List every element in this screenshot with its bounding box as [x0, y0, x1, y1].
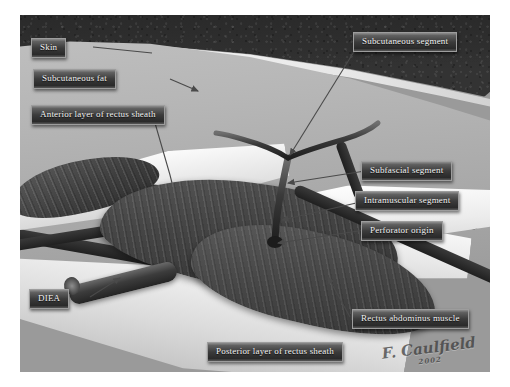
label-subfascial-segment[interactable]: Subfascial segment	[361, 161, 452, 181]
anatomical-illustration: Skin Subcutaneous fat Anterior layer of …	[20, 15, 490, 372]
label-posterior-layer-of-rectus-sheath[interactable]: Posterior layer of rectus sheath	[207, 342, 343, 362]
leader-subcutaneous-fat	[170, 79, 198, 91]
leader-rectus-muscle	[328, 277, 350, 317]
leader-diea	[90, 278, 120, 297]
perforator-vessel	[216, 123, 378, 248]
leader-intramuscular-segment	[282, 201, 365, 220]
leader-perforator-origin	[278, 230, 365, 243]
label-rectus-abdominus-muscle[interactable]: Rectus abdominus muscle	[352, 309, 469, 329]
leader-skin	[93, 47, 152, 53]
label-intramuscular-segment[interactable]: Intramuscular segment	[355, 191, 459, 211]
label-skin[interactable]: Skin	[31, 38, 66, 58]
label-diea[interactable]: DIEA	[29, 289, 69, 309]
label-subcutaneous-segment[interactable]: Subcutaneous segment	[353, 32, 457, 52]
leader-subfascial-segment	[288, 171, 365, 183]
label-anterior-layer-of-rectus-sheath[interactable]: Anterior layer of rectus sheath	[31, 105, 165, 125]
label-subcutaneous-fat[interactable]: Subcutaneous fat	[33, 69, 116, 89]
leader-anterior-sheath	[155, 123, 172, 183]
label-perforator-origin[interactable]: Perforator origin	[361, 221, 443, 241]
